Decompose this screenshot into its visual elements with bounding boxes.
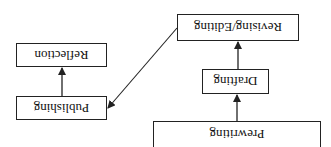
node-label: Publishing bbox=[34, 100, 90, 116]
edge-revising-publishing bbox=[108, 28, 177, 108]
node-reflection: Reflection bbox=[16, 43, 107, 67]
node-prewriting: Prewriting bbox=[153, 121, 321, 147]
node-drafting: Drafting bbox=[202, 69, 269, 94]
node-label: Reflection bbox=[34, 47, 88, 63]
node-label: Prewriting bbox=[210, 127, 265, 143]
writing-process-diagram: Prewriting Drafting Revising/Editing Pub… bbox=[0, 0, 331, 147]
node-label: Drafting bbox=[213, 74, 257, 90]
node-publishing: Publishing bbox=[16, 96, 107, 120]
node-label: Revising/Editing bbox=[194, 20, 282, 36]
node-revising-editing: Revising/Editing bbox=[177, 14, 299, 41]
